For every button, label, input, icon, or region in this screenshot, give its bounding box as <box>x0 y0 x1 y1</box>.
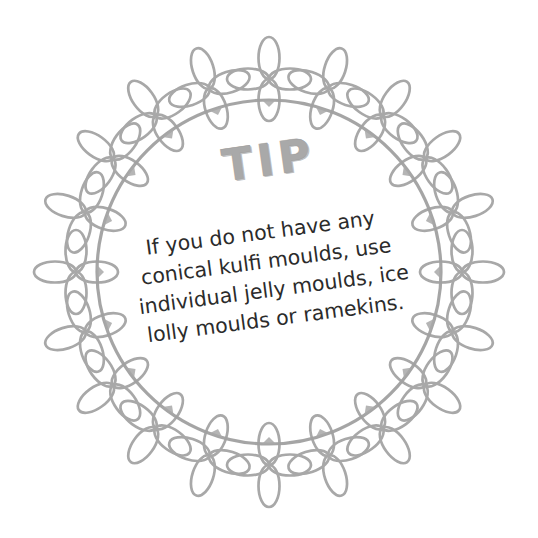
flower-petal-icon <box>259 465 280 507</box>
flower-petal-icon <box>259 37 280 79</box>
flower-petal-icon <box>462 262 504 283</box>
tip-content-area: TIP If you do not have any conical kulfi… <box>97 100 441 444</box>
flower-petal-icon <box>34 262 76 283</box>
tip-card: TIP If you do not have any conical kulfi… <box>0 0 538 538</box>
tip-body-text: If you do not have any conical kulfi mou… <box>105 198 433 354</box>
